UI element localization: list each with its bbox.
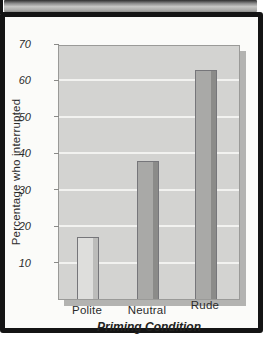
figure-frame: Percentage who interrupted Priming Condi… xyxy=(0,12,263,333)
y-tick-mark-20 xyxy=(54,226,59,227)
y-tick-label-60: 60 xyxy=(1,75,31,86)
y-tick-mark-10 xyxy=(54,262,59,263)
y-tick-label-50: 50 xyxy=(1,112,31,123)
y-tick-mark-60 xyxy=(54,80,59,81)
x-tick-label-rude: Rude xyxy=(175,299,235,311)
y-tick-label-70: 70 xyxy=(1,39,31,50)
y-tick-label-20: 20 xyxy=(1,221,31,232)
scanned-page-edge-strip xyxy=(4,0,257,12)
y-tick-mark-50 xyxy=(54,116,59,117)
bar-side-shade xyxy=(153,162,158,299)
y-tick-mark-40 xyxy=(54,153,59,154)
y-tick-mark-30 xyxy=(54,189,59,190)
figure-page: Percentage who interrupted Priming Condi… xyxy=(0,0,271,349)
y-tick-label-10: 10 xyxy=(1,258,31,269)
bar-face xyxy=(78,238,93,299)
bar-side-shade xyxy=(211,71,216,300)
bar-rude xyxy=(195,70,217,300)
bar-polite xyxy=(77,237,99,299)
x-axis-title: Priming Condition xyxy=(58,320,240,334)
bar-side-shade xyxy=(93,238,98,299)
bar-face xyxy=(196,71,211,300)
y-axis-title: Percentage who interrupted xyxy=(10,57,22,287)
y-tick-mark-70 xyxy=(54,44,59,45)
bar-chart-plot-area xyxy=(58,45,240,300)
x-tick-label-polite: Polite xyxy=(57,304,117,316)
y-tick-label-30: 30 xyxy=(1,185,31,196)
y-tick-label-40: 40 xyxy=(1,148,31,159)
bar-face xyxy=(138,162,153,299)
bar-neutral xyxy=(137,161,159,299)
x-tick-label-neutral: Neutral xyxy=(117,304,177,316)
